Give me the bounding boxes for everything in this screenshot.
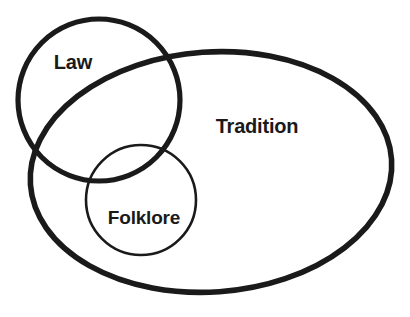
venn-diagram: Law Tradition Folklore bbox=[0, 0, 410, 317]
diagram-background bbox=[0, 0, 410, 317]
venn-canvas: Law Tradition Folklore bbox=[0, 0, 410, 317]
folklore-label: Folklore bbox=[108, 207, 180, 228]
tradition-label: Tradition bbox=[216, 115, 299, 137]
law-label: Law bbox=[54, 51, 93, 73]
